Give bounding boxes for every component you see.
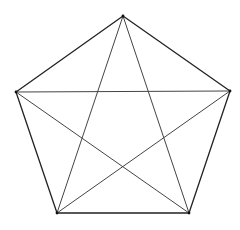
diagonal-edge-right-bottom-left xyxy=(57,91,230,213)
vertex-bottom-left xyxy=(56,212,59,215)
edges-group xyxy=(16,16,230,213)
diagram-canvas xyxy=(0,0,240,230)
pentagon-complete-graph xyxy=(0,0,240,230)
diagonal-edge-top-bottom-right xyxy=(123,16,189,213)
side-edge-left-top xyxy=(16,16,123,92)
side-edge-right-bottom-right xyxy=(189,91,230,213)
diagonal-edge-left-bottom-right xyxy=(16,92,189,213)
vertex-top xyxy=(122,15,125,18)
side-edge-bottom-left-left xyxy=(16,92,57,213)
diagonal-edge-top-bottom-left xyxy=(57,16,123,213)
vertex-bottom-right xyxy=(188,212,191,215)
side-edge-top-right xyxy=(123,16,230,91)
vertex-left xyxy=(15,91,18,94)
vertex-right xyxy=(229,90,232,93)
diagonal-edge-right-left xyxy=(16,91,230,92)
